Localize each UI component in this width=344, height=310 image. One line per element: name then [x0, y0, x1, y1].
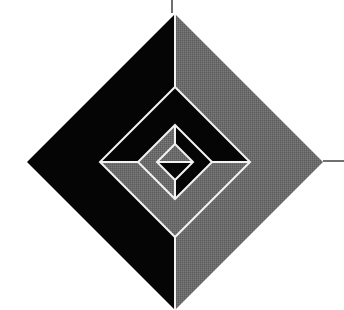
nested-diamond-diagram	[0, 0, 344, 310]
diamond-layers	[27, 14, 323, 310]
